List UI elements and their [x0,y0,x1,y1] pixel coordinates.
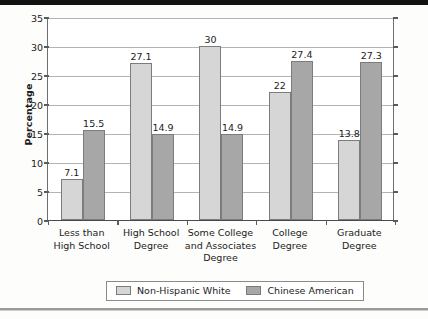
x-axis-category-label-line: Degree [178,252,263,265]
y-axis-tick-label: 15 [31,129,43,140]
bar-value-label: 7.1 [64,167,79,178]
bar: 27.4 [291,61,313,220]
x-axis-tick-mark [326,220,327,225]
bar-value-label: 13.8 [339,128,360,139]
bar-value-label: 27.1 [131,51,152,62]
bar-group: 7.115.5 [48,18,117,220]
legend-item: Non-Hispanic White [116,285,230,296]
x-axis-category-label-line: Graduate [317,227,402,240]
bar: 22 [269,92,291,220]
legend-label: Non-Hispanic White [137,285,230,296]
legend-swatch [246,286,261,295]
y-axis-tick-label: 35 [31,13,43,24]
bar-chart-figure: Percentage 051015202530357.115.527.114.9… [0,5,428,308]
bar: 15.5 [83,130,105,220]
bar-value-label: 27.3 [361,50,382,61]
x-axis-tick-mark [395,220,396,225]
bar: 27.1 [130,63,152,220]
scan-bottom-rule-artifact-secondary [0,310,428,311]
bar-value-label: 30 [204,34,216,45]
bar-value-label: 27.4 [291,49,312,60]
bar: 14.9 [221,134,243,220]
bar-group: 2227.4 [256,18,325,220]
y-axis-tick-label: 30 [31,42,43,53]
x-axis-tick-mark [256,220,257,225]
x-axis-tick-mark [48,220,49,225]
bar: 14.9 [152,134,174,220]
bar: 27.3 [360,62,382,220]
chart-legend: Non-Hispanic WhiteChinese American [106,281,364,301]
y-axis-tick-label: 0 [37,216,43,227]
legend-swatch [116,286,131,295]
x-axis-tick-mark [117,220,118,225]
x-axis-category-label: GraduateDegree [317,227,402,252]
y-axis-tick-label: 25 [31,71,43,82]
bar: 7.1 [61,179,83,220]
bar: 30 [199,46,221,220]
y-axis-tick-label: 20 [31,100,43,111]
bar-value-label: 15.5 [83,118,104,129]
bar-group: 27.114.9 [117,18,186,220]
bar-value-label: 14.9 [153,122,174,133]
x-axis-category-label-line: Degree [317,240,402,253]
y-axis-tick-label: 5 [37,187,43,198]
bar: 13.8 [338,140,360,220]
bar-value-label: 14.9 [222,122,243,133]
plot-area: 051015202530357.115.527.114.93014.92227.… [47,18,394,221]
y-axis-tick-label: 10 [31,158,43,169]
x-axis-tick-mark [187,220,188,225]
legend-item: Chinese American [246,285,353,296]
legend-label: Chinese American [267,285,353,296]
bar-value-label: 22 [274,80,286,91]
bar-group: 13.827.3 [326,18,395,220]
bar-group: 3014.9 [187,18,256,220]
